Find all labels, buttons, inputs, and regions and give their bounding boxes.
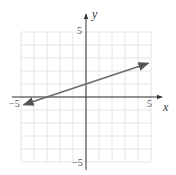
x-tick-max: 5 xyxy=(147,99,152,109)
x-tick-min: −5 xyxy=(9,99,20,109)
y-tick-min: −5 xyxy=(72,158,83,168)
x-axis-label: x xyxy=(163,101,168,113)
y-tick-max: 5 xyxy=(77,26,82,36)
coordinate-plane xyxy=(0,0,176,175)
y-axis-label: y xyxy=(92,8,97,20)
